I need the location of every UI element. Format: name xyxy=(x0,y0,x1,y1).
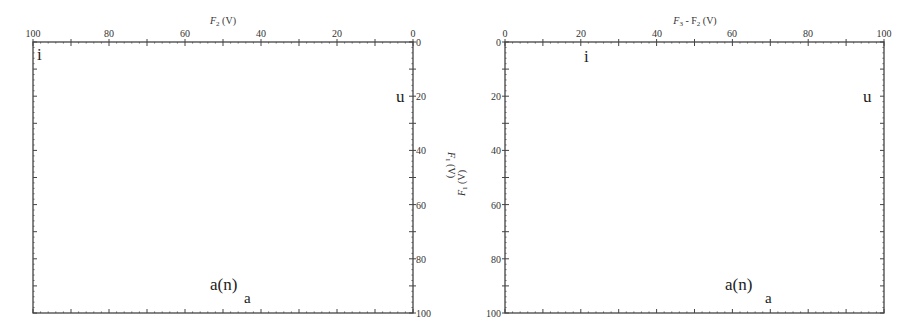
right-y-tick: 20 xyxy=(491,91,501,102)
vowel-label-a-nasal: a(n) xyxy=(725,275,752,294)
left-x-tick: 0 xyxy=(411,28,416,39)
left-x-axis-title: F2 (V) xyxy=(209,15,236,28)
right-axis-ticks xyxy=(502,39,884,313)
left-y-tick: 0 xyxy=(416,37,421,48)
right-y-tick: 100 xyxy=(486,308,501,319)
right-plot-frame xyxy=(505,42,884,313)
vowel-label-i: i xyxy=(584,47,589,66)
left-y-tick: 60 xyxy=(416,200,426,211)
left-y-tick: 40 xyxy=(416,145,426,156)
figure: 100 80 60 40 20 0 F2 (V) 0 20 40 60 80 1… xyxy=(0,0,910,330)
left-y-tick: 80 xyxy=(416,254,426,265)
shared-y-axis-title: F1 (V) F1 (V) xyxy=(444,151,469,197)
left-x-tick: 60 xyxy=(180,28,190,39)
vowel-label-u: u xyxy=(396,87,405,106)
right-y-tick: 60 xyxy=(491,200,501,211)
right-x-tick: 40 xyxy=(652,28,662,39)
y-axis-title-rotated-ccw: F1 (V) xyxy=(456,170,469,197)
vowel-label-a: a xyxy=(765,290,772,306)
left-x-tick: 40 xyxy=(256,28,266,39)
vowel-label-a: a xyxy=(244,290,251,306)
vowel-label-i: i xyxy=(37,45,42,64)
right-y-tick: 80 xyxy=(491,254,501,265)
right-x-tick: 80 xyxy=(803,28,813,39)
left-x-tick: 20 xyxy=(332,28,342,39)
right-x-tick: 60 xyxy=(727,28,737,39)
right-x-axis-title: F3 - F2 (V) xyxy=(672,15,716,28)
right-y-tick: 0 xyxy=(496,37,501,48)
right-x-tick: 0 xyxy=(503,28,508,39)
vowel-label-a-nasal: a(n) xyxy=(210,275,237,294)
right-chart: 0 20 40 60 80 100 F3 - F2 (V) 0 20 40 60… xyxy=(486,15,892,319)
left-plot-frame xyxy=(33,42,413,313)
left-chart: 100 80 60 40 20 0 F2 (V) 0 20 40 60 80 1… xyxy=(26,15,432,319)
vowel-label-u: u xyxy=(863,87,872,106)
right-y-tick: 40 xyxy=(491,145,501,156)
right-x-tick: 100 xyxy=(877,28,892,39)
right-x-tick: 20 xyxy=(576,28,586,39)
left-axis-ticks xyxy=(33,39,416,313)
left-x-tick: 100 xyxy=(26,28,41,39)
left-x-tick: 80 xyxy=(104,28,114,39)
left-y-tick: 20 xyxy=(416,91,426,102)
left-y-tick: 100 xyxy=(416,308,431,319)
